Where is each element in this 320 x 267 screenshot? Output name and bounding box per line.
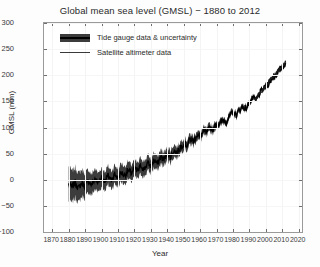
y-axis-tick-right: [299, 49, 302, 50]
chart-legend: Tide gauge data & uncertainty Satellite …: [60, 30, 220, 60]
y-axis-tick-right: [299, 101, 302, 102]
y-axis-tick: [44, 75, 47, 76]
x-axis-tick-label: 1950: [175, 236, 191, 243]
y-axis-tick: [44, 154, 47, 155]
chart-title: Global mean sea level (GMSL) − 1880 to 2…: [0, 5, 320, 16]
gridline-horizontal: [44, 180, 302, 181]
x-axis-tick-label: 1870: [43, 236, 59, 243]
y-axis-tick-label: 50: [6, 148, 14, 157]
y-axis-tick-right: [299, 23, 302, 24]
x-axis-tick-label: 1940: [158, 236, 174, 243]
line-swatch-icon: [60, 49, 90, 57]
x-axis-tick-label: 1880: [60, 236, 76, 243]
x-axis-tick-label: 2000: [257, 236, 273, 243]
gridline-horizontal: [44, 154, 302, 155]
y-axis-tick: [44, 23, 47, 24]
gridline-horizontal: [44, 75, 302, 76]
legend-item-tide-gauge: Tide gauge data & uncertainty: [60, 30, 220, 45]
y-axis-tick-label: −100: [0, 227, 14, 236]
band-swatch-icon: [60, 34, 90, 42]
y-axis-tick-label: 150: [1, 96, 14, 105]
y-axis-title: GMSL (mm): [7, 78, 16, 148]
x-axis-tick-label: 2010: [273, 236, 289, 243]
gridline-horizontal: [44, 101, 302, 102]
y-axis-tick-label: −50: [1, 200, 14, 209]
y-axis-tick-label: 200: [1, 70, 14, 79]
legend-label: Satellite altimeter data: [97, 48, 171, 57]
x-axis-tick-label: 1910: [109, 236, 125, 243]
x-axis-tick-label: 1930: [142, 236, 158, 243]
x-axis-tick-label: 1960: [191, 236, 207, 243]
y-axis-tick-right: [299, 154, 302, 155]
y-axis-tick-right: [299, 206, 302, 207]
y-axis-tick: [44, 232, 47, 233]
y-axis-tick-label: 0: [10, 174, 14, 183]
y-axis-tick-label: 100: [1, 122, 14, 131]
legend-label: Tide gauge data & uncertainty: [97, 33, 197, 42]
x-axis-tick-label: 1970: [208, 236, 224, 243]
x-axis-title: Year: [0, 249, 320, 258]
x-axis-tick-label: 1980: [224, 236, 240, 243]
legend-item-satellite: Satellite altimeter data: [60, 45, 220, 60]
y-axis-tick-right: [299, 75, 302, 76]
y-axis-tick-right: [299, 128, 302, 129]
y-axis-tick-label: 250: [1, 44, 14, 53]
x-axis-tick-label: 1900: [93, 236, 109, 243]
y-axis-tick-label: 300: [1, 18, 14, 27]
y-axis-tick: [44, 101, 47, 102]
chart-figure: Global mean sea level (GMSL) − 1880 to 2…: [0, 0, 320, 267]
x-axis-tick-label: 2020: [290, 236, 306, 243]
y-axis-tick: [44, 180, 47, 181]
y-axis-tick-right: [299, 180, 302, 181]
y-axis-tick: [44, 49, 47, 50]
gridline-horizontal: [44, 128, 302, 129]
x-axis-tick-label: 1890: [76, 236, 92, 243]
x-axis-tick-label: 1920: [126, 236, 142, 243]
y-axis-tick: [44, 128, 47, 129]
gridline-horizontal: [44, 232, 302, 233]
gridline-horizontal: [44, 23, 302, 24]
x-axis-tick-label: 1990: [241, 236, 257, 243]
gridline-horizontal: [44, 206, 302, 207]
y-axis-tick-right: [299, 232, 302, 233]
y-axis-tick: [44, 206, 47, 207]
